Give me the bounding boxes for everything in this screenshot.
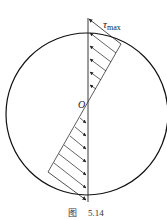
caption-prefix: 图 <box>68 208 77 218</box>
caption-number: 5.14 <box>88 208 104 218</box>
tau-max-arrow-bottom <box>48 172 86 200</box>
upper-stress-arrows <box>90 33 116 89</box>
tau-max-label: τmax <box>103 18 121 32</box>
origin-label: O <box>78 99 85 110</box>
cross-section-circle <box>6 33 167 195</box>
shear-stress-diagram: τmax O 图 5.14 <box>0 0 167 220</box>
